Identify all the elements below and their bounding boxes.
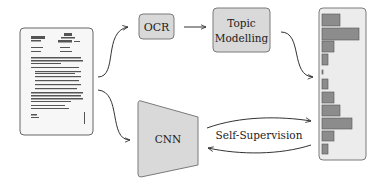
arrow-doc-to-cnn [98, 90, 130, 140]
histogram-bar [322, 144, 328, 154]
histogram-bar [322, 131, 334, 141]
histogram-bar [322, 118, 352, 129]
histogram-bar [322, 70, 323, 74]
histogram-bar [322, 92, 334, 103]
topic-modelling-box: Topic Modelling [213, 8, 270, 52]
cnn-block: CNN [138, 101, 198, 177]
arrow-doc-to-ocr [98, 27, 128, 77]
histogram-bar [322, 79, 328, 89]
cnn-label: CNN [155, 133, 181, 145]
topic-label-line2: Modelling [215, 32, 269, 44]
ocr-box: OCR [139, 14, 174, 39]
topic-label-line1: Topic [227, 17, 256, 29]
pipeline-diagram: OCR Topic Modelling CNN Self-Supervision [0, 0, 381, 185]
arrow-cnn-to-histogram [207, 118, 311, 128]
arrow-histogram-to-cnn [208, 145, 311, 153]
histogram-bar [322, 28, 359, 40]
histogram-bar [322, 105, 340, 116]
self-supervision-label: Self-Supervision [216, 129, 303, 141]
arrow-topic-to-histogram [281, 32, 313, 77]
histogram-bar [322, 54, 328, 65]
histogram-bar [322, 14, 340, 26]
document-image [20, 28, 93, 135]
topic-histogram [319, 8, 366, 160]
ocr-label: OCR [144, 21, 170, 34]
histogram-bar [322, 41, 334, 52]
